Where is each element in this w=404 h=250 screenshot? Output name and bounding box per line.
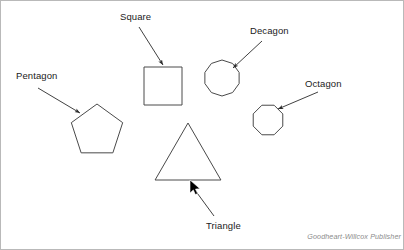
shape-pentagon	[71, 104, 122, 153]
square-leader-line	[139, 27, 163, 65]
pentagon-leader-line	[38, 88, 80, 113]
label-decagon: Decagon	[250, 25, 289, 36]
figure-canvas: Pentagon Square Decagon Octagon Triangle…	[0, 0, 404, 250]
publisher-credit: Goodheart-Willcox Publisher	[307, 232, 401, 241]
shape-triangle	[155, 123, 221, 180]
label-triangle: Triangle	[206, 220, 241, 231]
cursor-layer	[190, 180, 200, 195]
decagon-leader-line	[233, 41, 262, 68]
shape-decagon	[205, 60, 239, 96]
leader-line-group	[38, 27, 318, 216]
mouse-pointer-icon	[190, 180, 200, 195]
octagon-leader-line	[278, 92, 318, 109]
shape-square	[144, 67, 182, 105]
label-pentagon: Pentagon	[16, 70, 57, 81]
polygon-drawing-layer	[0, 0, 404, 250]
shape-octagon	[253, 105, 283, 135]
shape-group	[71, 60, 282, 180]
label-octagon: Octagon	[305, 78, 342, 89]
label-square: Square	[120, 11, 151, 22]
